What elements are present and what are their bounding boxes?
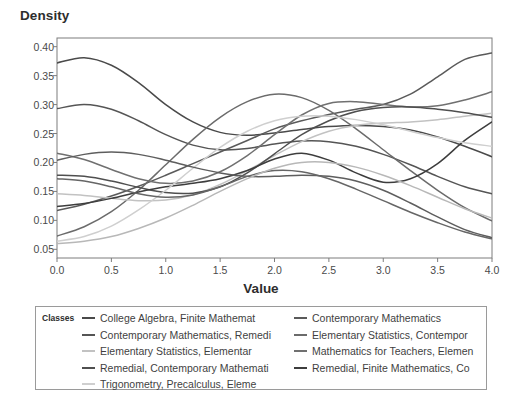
legend-item-label: Mathematics for Teachers, Elemen (312, 343, 473, 359)
density-chart: Density 0.050.100.150.200.250.300.350.40… (0, 0, 522, 411)
legend-swatch-icon (82, 334, 95, 336)
legend-item[interactable]: Remedial, Contemporary Mathemati (82, 360, 294, 376)
legend-swatch-icon (294, 334, 307, 336)
legend-item-label: Elementary Statistics, Elementar (100, 343, 252, 359)
legend-item-label: Elementary Statistics, Contempor (312, 327, 468, 343)
x-axis-tick-label: 0.5 (104, 264, 119, 276)
legend-swatch-icon (294, 317, 307, 319)
legend-item-label: Remedial, Contemporary Mathemati (100, 360, 269, 376)
legend-column-right: Contemporary MathematicsElementary Stati… (294, 310, 486, 376)
legend-swatch-icon (294, 367, 307, 369)
legend-item[interactable]: Remedial, Finite Mathematics, Co (294, 360, 486, 376)
legend: Classes College Algebra, Finite Mathemat… (35, 306, 487, 390)
legend-item-label: Trigonometry, Precalculus, Eleme (100, 376, 256, 392)
x-axis-tick-label: 3.5 (430, 264, 445, 276)
legend-item[interactable]: Trigonometry, Precalculus, Eleme (82, 376, 294, 392)
x-axis-tick-label: 2.5 (322, 264, 337, 276)
legend-swatch-icon (82, 383, 95, 385)
legend-item[interactable]: Mathematics for Teachers, Elemen (294, 343, 486, 359)
legend-item[interactable]: College Algebra, Finite Mathemat (82, 310, 294, 326)
x-axis-tick-label: 4.0 (485, 264, 500, 276)
legend-swatch-icon (82, 350, 95, 352)
legend-item-label: Remedial, Finite Mathematics, Co (312, 360, 470, 376)
legend-item[interactable]: Contemporary Mathematics, Remedi (82, 327, 294, 343)
legend-item-label: Contemporary Mathematics, Remedi (100, 327, 271, 343)
legend-item-label: College Algebra, Finite Mathemat (100, 310, 255, 326)
legend-item[interactable]: Elementary Statistics, Contempor (294, 327, 486, 343)
legend-item[interactable]: Elementary Statistics, Elementar (82, 343, 294, 359)
legend-swatch-icon (82, 367, 95, 369)
legend-swatch-icon (294, 350, 307, 352)
legend-swatch-icon (82, 317, 95, 319)
x-axis-tick-label: 3.0 (376, 264, 391, 276)
x-axis-tick-label: 1.5 (213, 264, 228, 276)
x-axis-tick-label: 0.0 (50, 264, 65, 276)
x-axis-title: Value (0, 281, 522, 296)
x-axis-tick-label: 1.0 (158, 264, 173, 276)
legend-title: Classes (42, 313, 74, 323)
legend-column-left: College Algebra, Finite MathematContempo… (82, 310, 294, 393)
legend-item-label: Contemporary Mathematics (312, 310, 441, 326)
x-axis-tick-label: 2.0 (267, 264, 282, 276)
legend-item[interactable]: Contemporary Mathematics (294, 310, 486, 326)
